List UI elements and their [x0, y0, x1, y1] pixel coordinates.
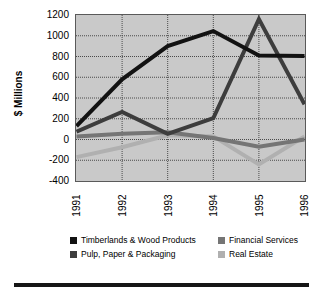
- y-tick-label: 1000: [47, 31, 69, 41]
- y-tick-label: -200: [49, 155, 69, 165]
- y-tick-label: 400: [52, 93, 69, 103]
- y-tick-label: 600: [52, 72, 69, 82]
- x-tick-label: 1992: [102, 186, 142, 211]
- x-tick-label: 1994: [193, 186, 233, 211]
- x-axis-tick-labels: 199119921993199419951996: [75, 186, 306, 228]
- legend-label: Financial Services: [229, 235, 298, 245]
- legend-swatch-icon: [218, 237, 225, 244]
- legend-item[interactable]: Timberlands & Wood Products: [70, 235, 218, 245]
- legend-swatch-icon: [218, 251, 225, 258]
- series-line: [77, 31, 305, 126]
- bottom-divider-rule: [14, 283, 309, 287]
- y-tick-label: -400: [49, 176, 69, 186]
- legend-swatch-icon: [70, 251, 77, 258]
- series-lines: [76, 15, 305, 181]
- y-axis-tick-labels: 120010008006004002000-200-400: [28, 14, 72, 182]
- legend-label: Pulp, Paper & Packaging: [81, 249, 176, 259]
- legend-label: Real Estate: [229, 249, 273, 259]
- legend-item[interactable]: Financial Services: [218, 235, 315, 245]
- y-tick-label: 800: [52, 52, 69, 62]
- x-tick-label: 1993: [148, 186, 188, 211]
- x-tick-label: 1996: [285, 186, 322, 211]
- legend-label: Timberlands & Wood Products: [81, 235, 196, 245]
- chart-figure: $ Millions 120010008006004002000-200-400…: [0, 0, 322, 301]
- x-tick-label: 1991: [57, 186, 97, 211]
- legend-item[interactable]: Real Estate: [218, 249, 315, 259]
- legend-item[interactable]: Pulp, Paper & Packaging: [70, 249, 218, 259]
- y-axis-title: $ Millions: [13, 54, 24, 134]
- y-tick-label: 0: [63, 135, 69, 145]
- legend-swatch-icon: [70, 237, 77, 244]
- plot-area: [75, 14, 306, 182]
- x-tick-label: 1995: [239, 186, 279, 211]
- y-tick-label: 200: [52, 114, 69, 124]
- y-tick-label: 1200: [47, 10, 69, 20]
- series-line: [77, 19, 305, 134]
- chart-legend: Timberlands & Wood ProductsFinancial Ser…: [70, 233, 315, 263]
